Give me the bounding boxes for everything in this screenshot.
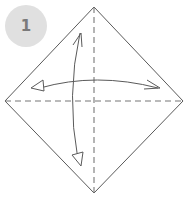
- horizontal-arrow-curve: [40, 80, 158, 88]
- origami-diagram: 1: [0, 0, 188, 197]
- vertical-arrow-curve: [72, 33, 80, 160]
- arrowhead-bottom-icon: [72, 152, 83, 166]
- arrowhead-left-icon: [31, 80, 44, 91]
- arrowhead-right-icon: [144, 80, 160, 89]
- diagram-drawing: [0, 0, 188, 197]
